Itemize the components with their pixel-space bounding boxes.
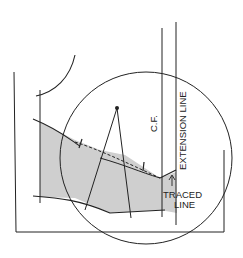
frame-left — [14, 72, 16, 232]
label-line: LINE — [174, 199, 195, 210]
label-center-front: C.F. — [148, 115, 159, 132]
pattern-diagram: C.F. EXTENSION LINE TRACED LINE — [0, 0, 243, 258]
armhole-curve — [36, 55, 75, 96]
label-extension-line: EXTENSION LINE — [177, 91, 188, 170]
diagram-canvas: C.F. EXTENSION LINE TRACED LINE — [0, 0, 243, 258]
